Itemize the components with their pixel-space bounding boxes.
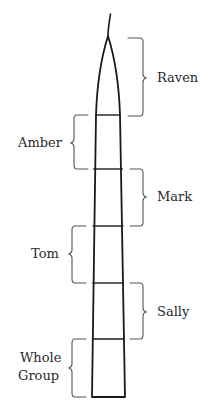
- label-raven: Raven: [157, 70, 198, 86]
- label-amber: Amber: [18, 135, 62, 151]
- label-tom: Tom: [31, 246, 59, 262]
- brace-tom: [69, 226, 86, 283]
- label-sally: Sally: [157, 304, 189, 320]
- brace-whole-group: [69, 339, 86, 397]
- brace-raven: [128, 38, 146, 116]
- brace-mark: [130, 169, 146, 226]
- label-mark: Mark: [157, 189, 192, 205]
- label-whole-group-line1: Whole: [20, 350, 61, 366]
- label-whole-group-line2: Group: [18, 368, 59, 384]
- pole-outline: [92, 36, 125, 397]
- brace-sally: [130, 283, 146, 339]
- pole-tail: [108, 14, 111, 36]
- brace-amber: [71, 115, 88, 169]
